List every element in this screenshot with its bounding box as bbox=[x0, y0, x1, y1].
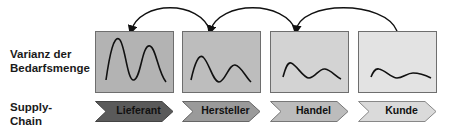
chain-step-handel: Handel bbox=[270, 101, 349, 122]
variance-box-kunde bbox=[358, 31, 437, 93]
demand-curve-hersteller bbox=[183, 32, 262, 94]
chain-step-label: Handel bbox=[270, 104, 349, 116]
variance-box-handel bbox=[270, 31, 349, 93]
supply-chain-label-line2: Chain bbox=[10, 114, 52, 128]
chain-step-label: Hersteller bbox=[182, 104, 261, 116]
chain-step-label: Lieferant bbox=[95, 104, 174, 116]
demand-curve-kunde bbox=[359, 32, 438, 94]
supply-chain-label: Supply- Chain bbox=[10, 100, 52, 128]
supply-chain-label-line1: Supply- bbox=[10, 100, 52, 114]
arrow-kunde-handel bbox=[210, 8, 296, 31]
variance-box-lieferant bbox=[95, 31, 174, 93]
chain-step-lieferant: Lieferant bbox=[95, 101, 174, 122]
arrow-handel-hersteller bbox=[131, 8, 210, 31]
variance-label: Varianz der Bedarfsmenge bbox=[10, 47, 90, 75]
demand-curve-lieferant bbox=[96, 32, 175, 94]
variance-box-hersteller bbox=[182, 31, 261, 93]
variance-label-line2: Bedarfsmenge bbox=[10, 61, 90, 75]
chain-step-kunde: Kunde bbox=[358, 101, 437, 122]
chain-step-label: Kunde bbox=[358, 104, 437, 116]
arrow-hersteller-lieferant bbox=[296, 8, 397, 31]
variance-label-line1: Varianz der bbox=[10, 47, 90, 61]
chain-step-hersteller: Hersteller bbox=[182, 101, 261, 122]
demand-curve-handel bbox=[271, 32, 350, 94]
